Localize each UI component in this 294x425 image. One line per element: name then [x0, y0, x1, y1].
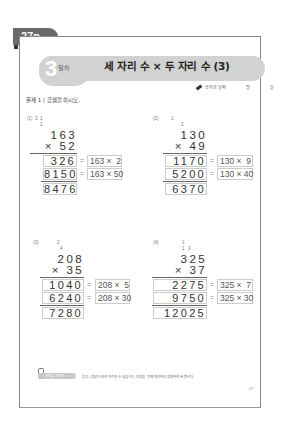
partial-product-2: 6240: [42, 292, 84, 304]
equals-sign: =: [210, 280, 214, 290]
footer-note: 참고 | 정답이 여러 가지일 수 있습니다. 과정을 함께 확인하고 정확하게…: [82, 374, 194, 379]
partial-expression-1: 163 × 2: [87, 155, 122, 167]
partial-expression-2: 163 × 50: [87, 168, 122, 180]
divider: [30, 153, 77, 154]
study-date-month: 월: [246, 84, 250, 90]
day-number: 3: [45, 56, 57, 81]
tab-notch-decoration: [14, 45, 18, 49]
partial-product-1: 1170: [165, 155, 207, 167]
carry-mark: 1: [40, 116, 43, 121]
study-date-label: 공부한 날짜: [205, 84, 226, 90]
equals-sign: =: [80, 156, 84, 166]
partial-expression-1: 130 × 9: [217, 155, 253, 167]
partial-expression-2: 130 × 40: [217, 168, 253, 180]
divider: [152, 277, 207, 278]
equals-sign: =: [210, 156, 214, 166]
equals-sign: =: [210, 293, 214, 303]
multiplier: × 37: [153, 265, 207, 276]
teacher-note-badge: 선생님 한마디: [38, 373, 76, 379]
carry-mark: 1: [171, 116, 174, 121]
multiplier: × 35: [42, 265, 84, 276]
partial-product-2: 8150: [43, 168, 77, 180]
divider: [152, 305, 207, 306]
carry-mark: 1: [182, 240, 185, 245]
divider: [163, 153, 207, 154]
carry-mark: 4: [60, 246, 63, 251]
equals-sign: =: [87, 293, 91, 303]
divider: [40, 277, 84, 278]
multiplier: × 49: [165, 141, 207, 152]
study-date: 공부한 날짜 월 일: [196, 84, 274, 90]
worksheet-page: [19, 36, 261, 408]
divider: [163, 181, 207, 182]
carry-mark: 1: [40, 122, 43, 127]
product-result: 6370: [165, 183, 207, 195]
multiplier: × 52: [30, 141, 77, 152]
page-number: 27: [249, 387, 253, 391]
carry-mark: 2: [57, 240, 60, 245]
product-result: 7280: [42, 307, 84, 319]
partial-product-1: 1040: [42, 279, 84, 291]
carry-mark: 1: [182, 246, 185, 251]
carry-mark: 3: [35, 116, 38, 121]
partial-expression-1: 325 × 7: [217, 279, 253, 291]
product-result: 12025: [153, 307, 207, 319]
equals-sign: =: [80, 169, 84, 179]
partial-expression-2: 208 × 30: [95, 292, 130, 304]
problem-number: (3): [33, 240, 39, 245]
problem-number: (4): [153, 240, 159, 245]
equals-sign: =: [210, 169, 214, 179]
partial-product-2: 5200: [165, 168, 207, 180]
carry-mark: 3: [188, 246, 191, 251]
problem-number: (1): [27, 116, 33, 121]
day-label: 일차: [58, 63, 70, 72]
equals-sign: =: [87, 280, 91, 290]
partial-product-1: 2275: [153, 279, 207, 291]
pencil-icon: [196, 84, 203, 90]
partial-expression-1: 208 × 5: [95, 279, 130, 291]
carry-mark: 2: [181, 122, 184, 127]
partial-product-2: 9750: [153, 292, 207, 304]
study-date-day: 일: [270, 84, 274, 90]
problem-number: (2): [153, 116, 159, 121]
partial-product-1: 326: [43, 155, 77, 167]
divider: [40, 305, 84, 306]
instruction: 문제 1 | 곱셈을 하시오.: [26, 96, 80, 104]
partial-expression-2: 325 × 30: [217, 292, 253, 304]
page-title: 세 자리 수 × 두 자리 수 (3): [104, 59, 230, 73]
product-result: 8476: [43, 183, 77, 195]
divider: [41, 181, 77, 182]
